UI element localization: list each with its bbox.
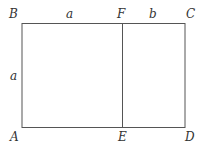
segment-label-a-top: a <box>66 7 73 21</box>
rectangle-diagram: B a F b C a A E D <box>0 0 201 146</box>
segment-label-a-side: a <box>10 69 17 83</box>
point-label-A: A <box>9 130 19 144</box>
rectangle-ABCD <box>22 24 185 128</box>
outer-rectangle <box>22 24 185 128</box>
point-label-C: C <box>186 7 195 21</box>
segment-label-b: b <box>149 7 157 21</box>
point-label-E: E <box>117 130 127 144</box>
point-label-D: D <box>184 130 195 144</box>
point-label-B: B <box>8 7 18 21</box>
point-label-F: F <box>116 7 126 21</box>
